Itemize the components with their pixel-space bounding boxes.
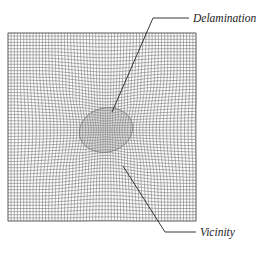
mesh-line-horizontal bbox=[8, 178, 196, 184]
mesh-diagram: Delamination Vicinity bbox=[0, 0, 269, 260]
mesh-line-vertical bbox=[52, 33, 57, 221]
delamination-label: Delamination bbox=[192, 12, 256, 24]
mesh-line-vertical bbox=[58, 33, 64, 221]
mesh-line-horizontal bbox=[8, 74, 196, 79]
mesh-line-vertical bbox=[61, 33, 67, 221]
mesh-line-vertical bbox=[146, 33, 152, 221]
mesh-line-horizontal bbox=[8, 83, 196, 89]
mesh-line-horizontal bbox=[8, 77, 196, 83]
mesh-line-horizontal bbox=[8, 181, 196, 186]
mesh-line-vertical bbox=[156, 33, 161, 221]
mesh-line-horizontal bbox=[8, 86, 196, 92]
mesh-line-vertical bbox=[55, 33, 61, 221]
mesh-line-vertical bbox=[149, 33, 155, 221]
mesh-line-horizontal bbox=[8, 175, 196, 181]
vicinity-label: Vicinity bbox=[200, 226, 236, 239]
mesh-line-vertical bbox=[153, 33, 159, 221]
delamination-region bbox=[74, 102, 138, 158]
mesh-line-horizontal bbox=[8, 171, 196, 177]
delamination-leader-line bbox=[112, 18, 189, 112]
mesh-line-vertical bbox=[143, 33, 149, 221]
mesh-line-horizontal bbox=[8, 80, 196, 86]
mesh-line-horizontal bbox=[8, 168, 196, 174]
